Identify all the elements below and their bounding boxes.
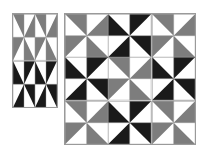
pinwheel-block <box>152 14 195 57</box>
pinwheel-block <box>108 14 151 57</box>
pinwheel-block <box>108 101 151 144</box>
pinwheel-block <box>152 57 195 100</box>
pinwheel-block <box>65 57 108 100</box>
pinwheel-block <box>35 61 57 108</box>
pinwheel-block <box>13 61 35 108</box>
pinwheel-block <box>35 14 57 61</box>
left-panel <box>12 13 58 108</box>
pinwheel-block <box>152 101 195 144</box>
pinwheel-block <box>108 57 151 100</box>
right-panel <box>64 13 196 145</box>
pinwheel-block <box>65 14 108 57</box>
figure-root <box>0 0 205 155</box>
pinwheel-block <box>13 14 35 61</box>
pinwheel-block <box>65 101 108 144</box>
